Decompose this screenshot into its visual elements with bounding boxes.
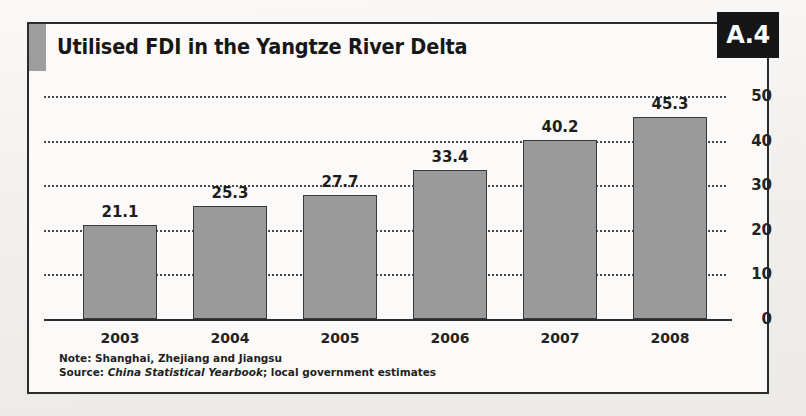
bar-value-label: 25.3 (180, 184, 280, 202)
title-accent-tab (29, 24, 46, 71)
bar (413, 170, 487, 319)
footnote-source-publication: China Statistical Yearbook (108, 366, 263, 378)
y-axis-tick-label: 40 (738, 132, 772, 150)
bar-value-label: 27.7 (290, 173, 390, 191)
figure-number-badge: A.4 (717, 12, 779, 58)
y-axis-tick-label: 0 (738, 310, 772, 328)
x-axis-tick-label: 2008 (620, 330, 720, 346)
y-axis-tick-label: 50 (738, 87, 772, 105)
bar (303, 195, 377, 319)
y-axis-tick-label: 20 (738, 221, 772, 239)
page-background: Utilised FDI in the Yangtze River Delta … (0, 0, 806, 416)
gridline (44, 141, 726, 143)
footnote-source: Source: China Statistical Yearbook; loca… (59, 365, 436, 379)
footnote-note-text: Shanghai, Zhejiang and Jiangsu (95, 352, 282, 364)
figure-frame: Utilised FDI in the Yangtze River Delta … (27, 22, 769, 394)
chart-plot-area: 01020304050 21.125.327.733.440.245.3 200… (44, 96, 756, 332)
bar-value-label: 40.2 (510, 118, 610, 136)
footnotes: Note: Shanghai, Zhejiang and Jiangsu Sou… (59, 351, 436, 379)
bar (633, 117, 707, 319)
x-axis-tick-label: 2003 (70, 330, 170, 346)
x-axis-line (44, 319, 732, 321)
y-axis-tick-label: 30 (738, 176, 772, 194)
x-axis-tick-label: 2007 (510, 330, 610, 346)
x-axis-tick-label: 2006 (400, 330, 500, 346)
page-title: Utilised FDI in the Yangtze River Delta (57, 35, 467, 59)
bar (523, 140, 597, 319)
bar (83, 225, 157, 319)
bar-value-label: 45.3 (620, 95, 720, 113)
y-axis-tick-label: 10 (738, 265, 772, 283)
footnote-note: Note: Shanghai, Zhejiang and Jiangsu (59, 351, 436, 365)
bar (193, 206, 267, 319)
bar-value-label: 21.1 (70, 203, 170, 221)
bar-value-label: 33.4 (400, 148, 500, 166)
footnote-source-lead: Source: (59, 366, 108, 378)
footnote-source-rest: ; local government estimates (263, 366, 436, 378)
footnote-note-lead: Note: (59, 352, 95, 364)
x-axis-tick-label: 2004 (180, 330, 280, 346)
x-axis-tick-label: 2005 (290, 330, 390, 346)
